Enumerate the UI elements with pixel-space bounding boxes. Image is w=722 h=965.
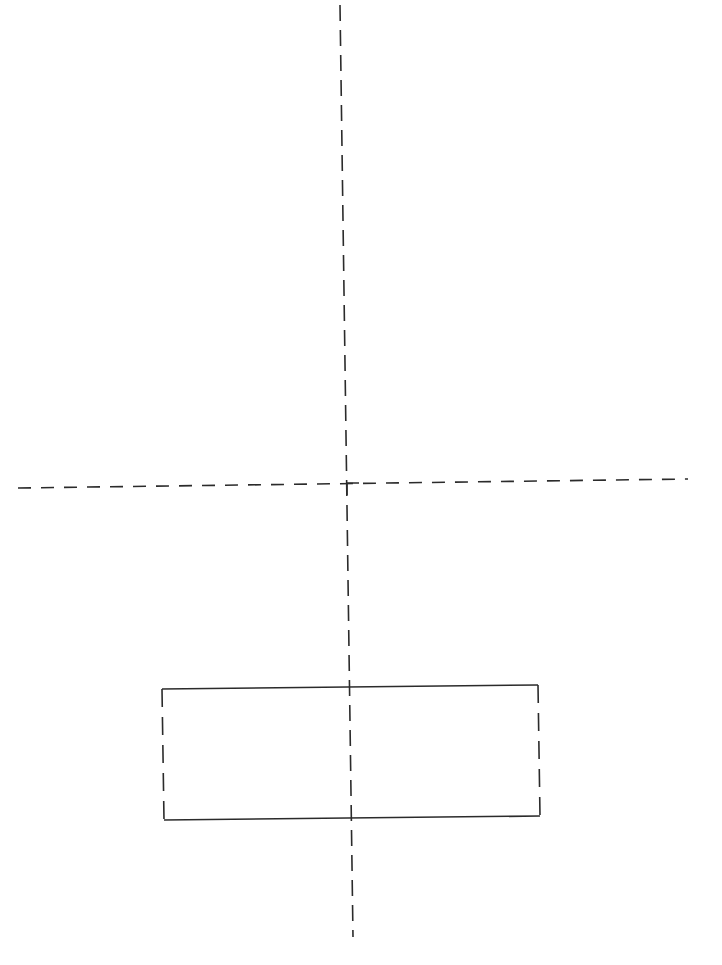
diagram-canvas [0,0,722,965]
background [0,0,722,965]
